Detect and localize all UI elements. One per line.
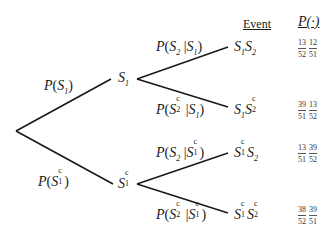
edge-label-p-s2c-given-s1: P(Sc2 |S1)	[156, 103, 204, 117]
node-s1: S1	[118, 71, 129, 85]
probability-s1c-s2c: 3852 3951	[298, 205, 317, 226]
edge-label-p-s2-given-s1: P(S2 |S1)	[156, 40, 202, 54]
event-s1c-s2c: Sc1Sc2	[234, 208, 260, 222]
event-column-header: Event	[243, 18, 271, 30]
tree-edges	[0, 0, 329, 235]
node-s1c: Sc1	[118, 177, 131, 191]
edge-label-p-s2c-given-s1c: P(Sc2 |Sc1)	[156, 208, 206, 222]
edge-label-p-s2-given-s1c: P(S2 |Sc1)	[156, 146, 204, 160]
edge-label-p-s1c: P(Sc1)	[38, 175, 69, 189]
probability-s1-s2c: 3951 1352	[298, 100, 317, 121]
probability-s1c-s2: 1351 3952	[298, 143, 317, 164]
event-s1-s2c: S1Sc2	[234, 103, 258, 117]
probability-tree-diagram: Event P(·) P(S1) P(Sc1) S1 Sc1 P(S2 |S1)…	[0, 0, 329, 235]
edge-label-p-s1: P(S1)	[44, 79, 73, 93]
probability-column-header: P(·)	[298, 15, 319, 29]
probability-s1-s2: 1352 1251	[298, 38, 317, 59]
event-s1-s2: S1S2	[234, 40, 256, 54]
event-s1c-s2: Sc1S2	[234, 146, 258, 160]
